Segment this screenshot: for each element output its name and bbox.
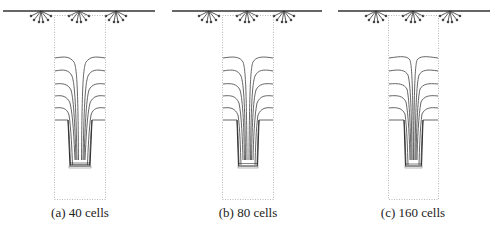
- contour-lines: [389, 57, 438, 165]
- dotted-domain-box: [55, 16, 106, 200]
- panel-c: (c) 160 cells: [334, 0, 492, 238]
- panel-b: (b) 80 cells: [168, 0, 328, 238]
- caption-c: (c) 160 cells: [334, 205, 492, 221]
- diagram-b: [168, 0, 328, 205]
- contour-lines: [55, 57, 105, 165]
- panel-a: (a) 40 cells: [0, 0, 160, 238]
- caption-b: (b) 80 cells: [168, 205, 328, 221]
- fan-sources: [365, 11, 461, 23]
- caption-a: (a) 40 cells: [0, 205, 160, 221]
- diagram-c: [334, 0, 492, 205]
- contour-lines: [223, 57, 273, 165]
- fan-sources: [30, 11, 127, 23]
- diagram-a: [0, 0, 160, 205]
- dotted-domain-box: [223, 16, 274, 200]
- fan-sources: [198, 11, 295, 23]
